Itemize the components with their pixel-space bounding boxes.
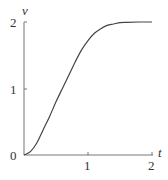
chart-canvas	[0, 0, 168, 180]
data-curve	[24, 22, 152, 155]
origin-label: 0	[10, 149, 17, 162]
y-axis-label: v	[22, 4, 28, 17]
y-tick-label-2: 2	[10, 16, 17, 29]
y-tick-label-1: 1	[10, 83, 17, 96]
x-tick-label-1: 1	[84, 159, 91, 172]
x-axis-label: t	[158, 146, 162, 159]
x-tick-label-2: 2	[148, 159, 155, 172]
